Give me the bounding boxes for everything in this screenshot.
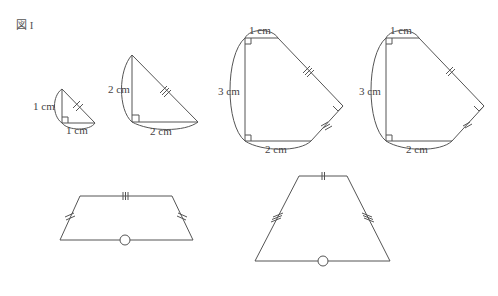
- small-triangle-vertical-label: 1 cm: [33, 100, 55, 112]
- pentagon-right: 1 cm 3 cm 2 cm: [359, 24, 484, 155]
- trapezoid-left: [60, 192, 193, 245]
- pentagon-right-left-label: 3 cm: [359, 85, 381, 97]
- pentagon-left-bottom-label: 2 cm: [265, 143, 287, 155]
- medium-triangle-vertical-label: 2 cm: [108, 83, 130, 95]
- small-triangle: 1 cm 1 cm: [33, 89, 95, 136]
- figure-title: 図 I: [16, 19, 34, 31]
- figure-canvas: 図 I 1 cm 1 cm 2 cm 2 cm: [0, 0, 498, 296]
- right-angle-mark: [62, 117, 68, 123]
- trapezoid-right: [255, 172, 390, 266]
- medium-triangle: 2 cm 2 cm: [108, 55, 198, 137]
- pentagon-left-left-label: 3 cm: [218, 85, 240, 97]
- pentagon-left: 1 cm 3 cm 2 cm: [218, 24, 343, 155]
- pentagon-right-top-label: 1 cm: [390, 24, 412, 36]
- pentagon-right-bottom-label: 2 cm: [406, 143, 428, 155]
- pentagon-left-top-label: 1 cm: [249, 24, 271, 36]
- right-angle-mark: [132, 115, 139, 122]
- small-triangle-horizontal-label: 1 cm: [66, 124, 88, 136]
- medium-triangle-horizontal-label: 2 cm: [150, 125, 172, 137]
